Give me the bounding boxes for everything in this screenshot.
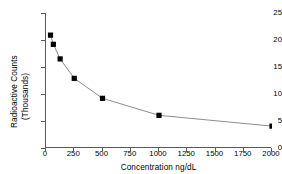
x-tick-mark — [102, 148, 103, 152]
y-axis-title: Radioactive Counts (Thousands) — [0, 0, 32, 152]
x-tick-mark — [130, 148, 131, 152]
data-point-marker — [156, 113, 161, 118]
x-tick-mark — [186, 148, 187, 152]
data-point-marker — [269, 124, 272, 129]
data-point-marker — [58, 56, 63, 61]
x-tick-mark — [243, 148, 244, 152]
x-tick-mark — [158, 148, 159, 152]
plot-area — [45, 13, 271, 148]
x-tick-mark — [215, 148, 216, 152]
x-tick-mark — [73, 148, 74, 152]
data-point-marker — [48, 33, 53, 38]
series-line — [51, 35, 272, 126]
x-axis-title: Concentration ng/dL — [45, 163, 272, 172]
data-point-marker — [100, 96, 105, 101]
data-point-marker — [72, 76, 77, 81]
data-series-svg — [46, 13, 272, 148]
x-tick-label: 2000 — [258, 150, 282, 158]
y-axis-title-line1: Radioactive Counts — [10, 55, 19, 128]
x-tick-mark — [45, 148, 46, 152]
standard-curve-chart: Radioactive Counts (Thousands) 051015202… — [0, 0, 282, 174]
data-point-marker — [51, 42, 56, 47]
x-tick-mark — [271, 148, 272, 152]
y-axis-title-line2: (Thousands) — [21, 73, 30, 120]
